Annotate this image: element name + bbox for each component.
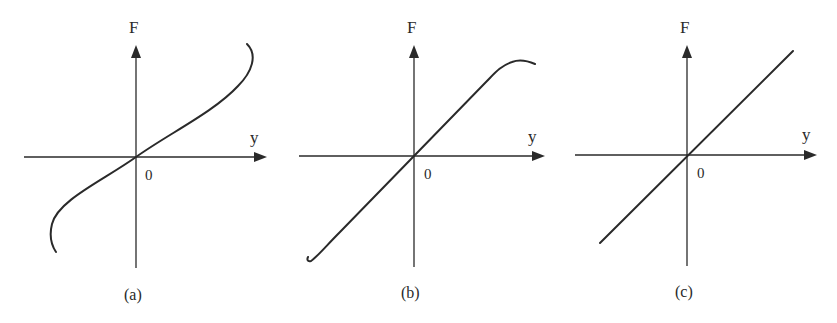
panel-b: F y 0 (b) xyxy=(299,18,545,302)
y-axis-label: y xyxy=(528,127,537,146)
f-axis-label: F xyxy=(680,18,689,37)
panel-caption: (b) xyxy=(401,284,420,302)
origin-label: 0 xyxy=(145,167,153,183)
y-axis-arrow-icon xyxy=(532,151,545,161)
y-axis-arrow-icon xyxy=(254,152,267,162)
panel-caption: (a) xyxy=(124,286,142,304)
f-axis-label: F xyxy=(407,18,416,37)
y-axis-label: y xyxy=(250,128,259,147)
origin-label: 0 xyxy=(424,166,432,182)
panel-a: F y 0 (a) xyxy=(24,18,267,304)
curve-b xyxy=(307,61,535,262)
origin-label: 0 xyxy=(697,165,705,181)
f-axis-arrow-icon xyxy=(409,45,419,58)
curve-a xyxy=(51,44,253,252)
y-axis-label: y xyxy=(802,125,811,144)
f-axis-arrow-icon xyxy=(682,45,692,58)
y-axis-arrow-icon xyxy=(804,150,817,160)
curve-c xyxy=(600,51,793,243)
panel-caption: (c) xyxy=(675,283,693,301)
f-axis-label: F xyxy=(129,18,138,37)
panel-c: F y 0 (c) xyxy=(575,18,817,301)
f-axis-arrow-icon xyxy=(131,45,141,58)
force-displacement-figure: F y 0 (a) F y 0 (b) F y 0 (c) xyxy=(0,0,837,323)
